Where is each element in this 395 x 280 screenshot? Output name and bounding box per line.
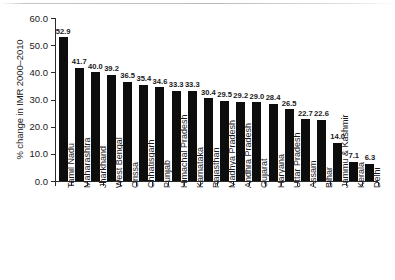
bar-chart-figure: % change in IMR 2000–2010 0.010.020.030.… (0, 0, 395, 280)
x-axis-category-label: Chhatisgarh (147, 139, 156, 188)
x-axis-category-label: Jammu & Kashmir (341, 114, 350, 188)
y-axis-tick-label: 60.0 (2, 14, 48, 23)
bar-value-label: 26.5 (275, 100, 303, 108)
y-axis-tick-label: 10.0 (2, 149, 48, 158)
x-axis-category-label: West Bengal (115, 137, 124, 188)
x-axis-category-label: Maharashtra (83, 137, 92, 188)
y-axis-tick-label: 40.0 (2, 68, 48, 77)
x-axis-category-label: Assam (309, 160, 318, 188)
bar-value-label: 22.6 (307, 110, 335, 118)
x-axis-category-label: Punjab (163, 160, 172, 188)
x-axis-category-label: Orissa (131, 162, 140, 188)
x-axis-category-label: Haryana (277, 154, 286, 188)
x-axis-category-label: Uttar Pradesh (293, 132, 302, 188)
x-axis-category-label: Delhi (373, 167, 382, 188)
x-axis-category-label: Tamil Nadu (67, 143, 76, 188)
y-axis-tick-label: 30.0 (2, 95, 48, 104)
x-axis-category-label: Andhra Pradesh (244, 123, 253, 188)
bar-value-label: 52.9 (49, 28, 77, 36)
x-axis-category-label: Gujarat (260, 158, 269, 188)
y-axis-line (55, 18, 56, 182)
y-axis-tick-label: 0.0 (2, 177, 48, 186)
x-axis-category-label: Rajasthan (212, 147, 221, 188)
x-axis-category-label: Kerala (357, 162, 366, 188)
y-axis-tick-label: 50.0 (2, 41, 48, 50)
x-axis-category-label: Himachal Pradesh (180, 114, 189, 188)
y-axis-tick-label: 20.0 (2, 122, 48, 131)
x-axis-category-label: Jharkhand (99, 146, 108, 188)
x-axis-tick-mark (55, 182, 56, 186)
x-axis-category-label: Bihar (325, 167, 334, 188)
x-axis-category-label: Karnataka (196, 147, 205, 188)
x-axis-category-label: Madhya Pradesh (228, 120, 237, 188)
